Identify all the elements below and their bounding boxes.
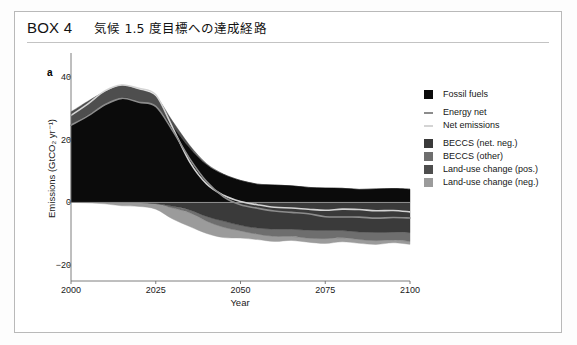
legend-label: Land-use change (pos.): [443, 164, 538, 175]
legend-label: BECCS (net. neg.): [443, 138, 518, 149]
legend-label: BECCS (other): [443, 151, 503, 162]
chart-legend: Fossil fuelsEnergy netNet emissionsBECCS…: [424, 88, 559, 189]
legend-color-swatch: [424, 90, 433, 99]
figure-page: BOX 4 気候 1.5 度目標への達成経路 a Emissions (GtCO…: [0, 0, 577, 345]
box-title: 気候 1.5 度目標への達成経路: [94, 18, 266, 37]
legend-label: Fossil fuels: [443, 89, 488, 100]
legend-item: BECCS (net. neg.): [424, 137, 559, 150]
legend-item: Net emissions: [424, 119, 559, 132]
box-card: BOX 4 気候 1.5 度目標への達成経路 a Emissions (GtCO…: [14, 11, 562, 333]
legend-item: Fossil fuels: [424, 88, 559, 101]
legend-item: Land-use change (pos.): [424, 163, 559, 176]
legend-color-swatch: [424, 152, 433, 161]
legend-color-swatch: [424, 139, 433, 148]
legend-item: Land-use change (neg.): [424, 176, 559, 189]
legend-label: Energy net: [443, 107, 487, 118]
legend-label: Land-use change (neg.): [443, 177, 539, 188]
area-fossil-fuels: [71, 98, 410, 203]
box-header: BOX 4 気候 1.5 度目標への達成経路: [15, 12, 561, 42]
legend-line-marker: [424, 108, 433, 117]
legend-item: Energy net: [424, 106, 559, 119]
chart-figure: a Emissions (GtCO₂ yr⁻¹) Year 40200−20 2…: [15, 43, 561, 333]
legend-item: BECCS (other): [424, 150, 559, 163]
legend-label: Net emissions: [443, 120, 500, 131]
legend-color-swatch: [424, 165, 433, 174]
legend-color-swatch: [424, 178, 433, 187]
legend-line-marker: [424, 121, 433, 130]
box-number: BOX 4: [27, 19, 72, 36]
